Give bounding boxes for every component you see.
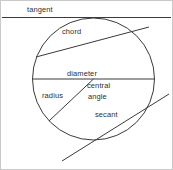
label-diameter: diameter (67, 69, 97, 78)
label-tangent: tangent (27, 5, 53, 14)
chord-line (36, 27, 149, 57)
circle-parts-diagram: tangent chord diameter radius central an… (0, 0, 173, 170)
label-central-angle-line2: angle (88, 92, 107, 101)
label-radius: radius (42, 91, 63, 100)
label-central-angle-line1: central (87, 81, 110, 90)
label-chord: chord (62, 27, 81, 36)
label-secant: secant (95, 110, 118, 119)
secant-line (62, 94, 169, 161)
